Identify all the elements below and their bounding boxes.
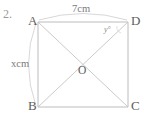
left-measure-arc [29,23,37,106]
center-label-o: O [78,65,86,77]
vertex-label-d: D [131,14,140,27]
vertex-label-c: C [131,99,140,112]
geometry-figure: 2. A D B C O 7cm xcm y° [0,0,144,125]
angle-label-y: y° [104,26,111,34]
side-length-left: xcm [11,59,29,70]
side-length-top: 7cm [72,4,90,15]
question-number: 2. [3,8,12,20]
vertex-label-a: A [28,14,37,27]
vertex-label-b: B [28,99,37,112]
